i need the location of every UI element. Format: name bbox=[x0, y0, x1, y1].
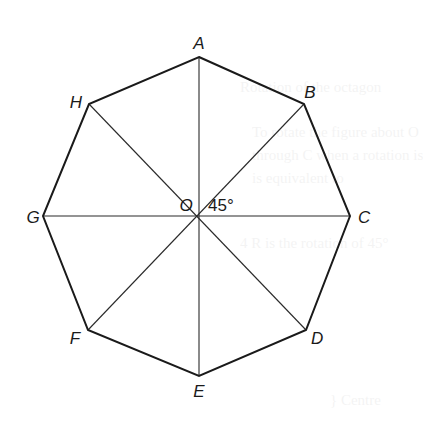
show-through-line: } Centre bbox=[330, 392, 381, 409]
show-through-line: Rotation of the octagon bbox=[240, 79, 381, 96]
vertex-label-d: D bbox=[311, 329, 323, 348]
angle-label: 45° bbox=[208, 196, 234, 215]
show-through-line: To rotate the figure about O bbox=[252, 124, 419, 141]
vertex-label-h: H bbox=[70, 93, 83, 112]
show-through-line: through C when a rotation is bbox=[252, 147, 423, 164]
vertex-label-e: E bbox=[193, 382, 205, 401]
vertex-label-c: C bbox=[358, 208, 371, 227]
vertex-label-g: G bbox=[26, 208, 39, 227]
vertex-label-f: F bbox=[70, 329, 82, 348]
show-through-line: is equivalent to bbox=[252, 170, 344, 187]
vertex-label-a: A bbox=[192, 34, 204, 53]
show-through-line: 4 R is the rotation of 45° bbox=[240, 235, 388, 252]
center-label-o: O bbox=[179, 196, 192, 215]
